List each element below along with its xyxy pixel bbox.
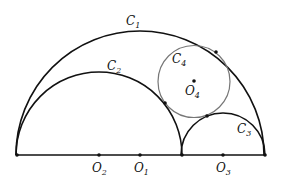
point-tangent-c4-c2	[163, 101, 167, 105]
point-right-end	[263, 153, 267, 157]
label-o4: O4	[185, 84, 200, 100]
point-o3	[221, 153, 225, 157]
label-o2: O2	[92, 161, 107, 177]
point-left-end	[15, 153, 19, 157]
label-o1: O1	[134, 161, 149, 177]
point-tangent-c4-c1	[214, 50, 218, 54]
point-o1	[138, 153, 142, 157]
point-mid	[180, 153, 184, 157]
point-o2	[97, 153, 101, 157]
circle-c2	[16, 72, 182, 155]
circle-c1	[16, 31, 264, 155]
label-c4: C4	[172, 52, 186, 68]
geometry-diagram: C1C2C3C4O2O1O3O4	[0, 0, 281, 180]
circle-c3	[181, 113, 265, 155]
label-c2: C2	[107, 59, 121, 75]
point-tangent-c4-c3	[205, 114, 209, 118]
circles-group	[16, 31, 265, 155]
label-o3: O3	[216, 161, 231, 177]
label-c3: C3	[237, 122, 251, 138]
point-o4	[192, 79, 196, 83]
label-c1: C1	[126, 14, 140, 30]
